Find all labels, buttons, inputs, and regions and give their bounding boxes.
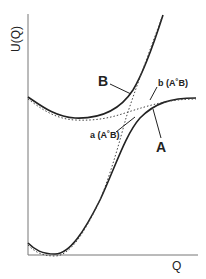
potential-energy-diagram: U(Q) Q B A b (A˚B) a (A˚B) (0, 0, 206, 279)
x-axis-label: Q (172, 259, 181, 273)
leader-B (110, 84, 131, 94)
leader-A (153, 109, 161, 138)
curve-B (28, 15, 163, 118)
label-b: b (A˚B) (158, 78, 188, 88)
curve-A (28, 98, 196, 254)
label-B: B (98, 73, 108, 89)
y-axis-label: U(Q) (9, 26, 23, 52)
leader-b (150, 87, 157, 100)
label-a: a (A˚B) (90, 130, 120, 140)
label-A: A (156, 139, 166, 155)
